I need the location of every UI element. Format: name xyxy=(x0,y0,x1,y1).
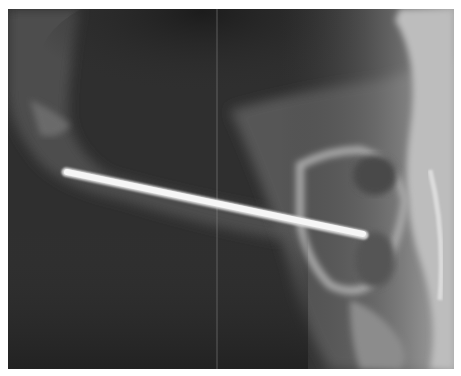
xray-illustration xyxy=(8,9,454,369)
xray-image xyxy=(8,9,454,369)
foramen-upper xyxy=(353,155,397,195)
dark-lower xyxy=(8,230,308,369)
foramen-lower xyxy=(355,232,395,288)
